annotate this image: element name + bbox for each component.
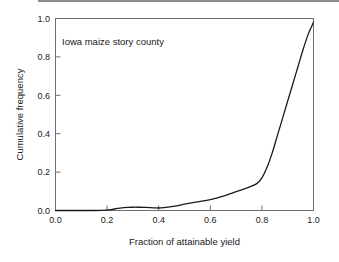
- plot-frame-rect: [56, 19, 314, 211]
- plot-frame: [56, 19, 314, 211]
- x-axis-title: Fraction of attainable yield: [129, 236, 240, 247]
- cumulative-frequency-chart: 0.0 0.2 0.4 0.6 0.8 1.0 0.0 0.2 0.4 0.6 …: [0, 0, 339, 262]
- plot-annotation-label: Iowa maize story county: [62, 36, 164, 47]
- y-tick-label-5: 1.0: [37, 14, 50, 24]
- x-axis-ticks: [56, 206, 314, 211]
- y-axis-title: Cumulative frequency: [14, 68, 25, 160]
- x-tick-label-1: 0.2: [101, 215, 114, 225]
- x-tick-label-0: 0.0: [49, 215, 62, 225]
- y-tick-label-0: 0.0: [37, 206, 50, 216]
- y-axis-ticks: [56, 19, 61, 211]
- x-tick-label-3: 0.6: [204, 215, 217, 225]
- x-tick-labels: 0.0 0.2 0.4 0.6 0.8 1.0: [49, 215, 320, 225]
- y-tick-label-1: 0.2: [37, 167, 50, 177]
- x-tick-label-5: 1.0: [307, 215, 320, 225]
- y-tick-labels: 0.0 0.2 0.4 0.6 0.8 1.0: [37, 14, 50, 216]
- y-tick-label-2: 0.4: [37, 129, 50, 139]
- figure-container: 0.0 0.2 0.4 0.6 0.8 1.0 0.0 0.2 0.4 0.6 …: [0, 0, 339, 262]
- y-tick-label-4: 0.8: [37, 52, 50, 62]
- y-tick-label-3: 0.6: [37, 91, 50, 101]
- cumulative-frequency-curve: [56, 22, 314, 210]
- x-tick-label-4: 0.8: [256, 215, 269, 225]
- x-tick-label-2: 0.4: [152, 215, 165, 225]
